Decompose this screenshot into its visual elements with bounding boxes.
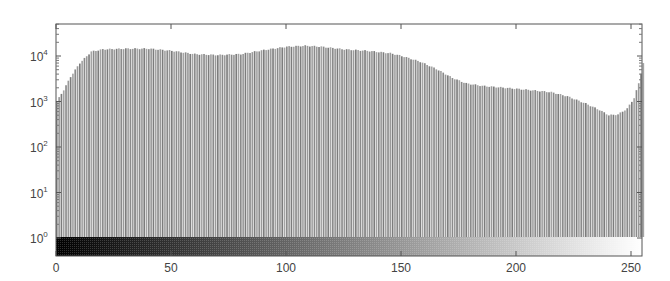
- histogram-bar: [341, 49, 343, 237]
- histogram-bar: [488, 87, 490, 237]
- histogram-bar: [353, 50, 355, 237]
- histogram-bar: [275, 49, 277, 237]
- histogram-bar: [116, 49, 118, 237]
- histogram-bar: [408, 58, 410, 237]
- histogram-bar: [541, 91, 543, 237]
- histogram-bar: [153, 49, 155, 237]
- histogram-bar: [263, 50, 265, 237]
- histogram-bar: [256, 51, 258, 237]
- histogram-bar: [63, 90, 65, 237]
- histogram-bar: [189, 54, 191, 237]
- histogram-bar: [603, 112, 605, 237]
- histogram-bar: [442, 73, 444, 237]
- histogram-bar: [424, 63, 426, 237]
- histogram-bar: [606, 114, 608, 237]
- histogram-bar: [84, 58, 86, 237]
- histogram-bar: [286, 47, 288, 237]
- histogram-bar: [415, 60, 417, 237]
- histogram-bar: [610, 114, 612, 237]
- histogram-bar: [631, 102, 633, 237]
- histogram-bar: [436, 69, 438, 237]
- histogram-bar: [465, 83, 467, 237]
- histogram-bar: [417, 61, 419, 237]
- histogram-bar: [514, 89, 516, 237]
- histogram-bar: [346, 49, 348, 237]
- histogram-bar: [249, 53, 251, 237]
- histogram-bar: [553, 93, 555, 237]
- histogram-bar: [594, 107, 596, 237]
- histogram-bar: [429, 66, 431, 237]
- x-tick-label: 250: [621, 261, 641, 275]
- histogram-bar: [537, 91, 539, 237]
- histogram-bar: [362, 51, 364, 237]
- histogram-bar: [592, 107, 594, 237]
- histogram-bar: [431, 67, 433, 237]
- histogram-bar: [454, 79, 456, 237]
- histogram-bar: [477, 85, 479, 237]
- histogram-bar: [534, 90, 536, 237]
- histogram-bars: [56, 45, 644, 237]
- histogram-bar: [502, 88, 504, 237]
- histogram-bar: [406, 57, 408, 237]
- histogram-bar: [396, 55, 398, 237]
- histogram-bar: [199, 55, 201, 237]
- histogram-bar: [206, 55, 208, 237]
- histogram-bar: [277, 48, 279, 237]
- histogram-bar: [91, 51, 93, 237]
- histogram-bar: [475, 84, 477, 237]
- histogram-bar: [332, 48, 334, 237]
- histogram-bar: [226, 55, 228, 237]
- histogram-bar: [201, 54, 203, 237]
- histogram-bar: [173, 52, 175, 237]
- histogram-bar: [438, 70, 440, 237]
- histogram-bar: [72, 74, 74, 237]
- histogram-bar: [238, 54, 240, 237]
- histogram-bar: [521, 90, 523, 237]
- histogram-bar: [139, 49, 141, 237]
- histogram-bar: [224, 55, 226, 237]
- histogram-bar: [127, 48, 129, 237]
- histogram-bar: [86, 56, 88, 237]
- histogram-bar: [102, 49, 104, 237]
- histogram-bar: [601, 111, 603, 237]
- histogram-bar: [383, 52, 385, 237]
- histogram-bar: [360, 51, 362, 237]
- histogram-bar: [77, 66, 79, 237]
- histogram-bar: [551, 92, 553, 237]
- histogram-bar: [79, 64, 81, 237]
- histogram-bar: [587, 105, 589, 237]
- histogram-bar: [148, 49, 150, 237]
- y-tick-label: 104: [30, 48, 48, 64]
- histogram-bar: [597, 109, 599, 237]
- histogram-bar: [134, 48, 136, 237]
- histogram-bar: [585, 103, 587, 237]
- histogram-bar: [376, 52, 378, 237]
- histogram-bar: [456, 79, 458, 237]
- histogram-bar: [74, 69, 76, 237]
- histogram-bar: [327, 48, 329, 237]
- histogram-bar: [622, 112, 624, 237]
- histogram-bar: [569, 97, 571, 237]
- histogram-bar: [210, 54, 212, 237]
- histogram-bar: [323, 47, 325, 237]
- histogram-bar: [330, 47, 332, 237]
- histogram-bar: [141, 49, 143, 237]
- histogram-bar: [185, 52, 187, 237]
- x-tick-label: 0: [53, 261, 60, 275]
- histogram-bar: [643, 63, 645, 237]
- histogram-bar: [516, 88, 518, 237]
- histogram-bar: [123, 49, 125, 237]
- histogram-bar: [180, 52, 182, 237]
- histogram-bar: [410, 59, 412, 237]
- histogram-bar: [196, 54, 198, 237]
- histogram-bar: [215, 55, 217, 237]
- histogram-bar: [440, 71, 442, 237]
- histogram-bar: [387, 53, 389, 237]
- histogram-bar: [401, 56, 403, 237]
- histogram-bar: [560, 94, 562, 237]
- histogram-bar: [511, 89, 513, 237]
- histogram-bar: [334, 49, 336, 237]
- histogram-bar: [532, 90, 534, 237]
- histogram-bar: [132, 49, 134, 237]
- histogram-bar: [114, 50, 116, 237]
